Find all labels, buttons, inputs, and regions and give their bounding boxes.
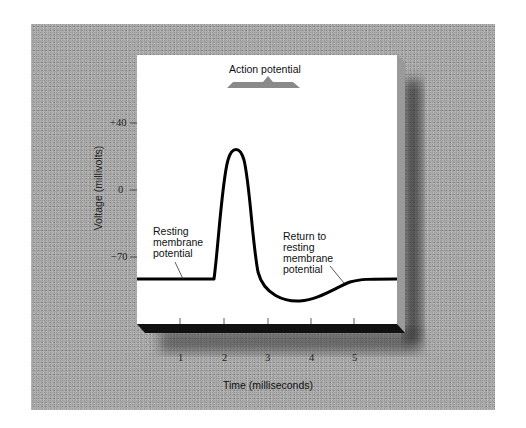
plot-panel xyxy=(137,55,397,324)
x-tick-2: 2 xyxy=(222,352,227,363)
resting-potential-annotation: Resting membrane potential xyxy=(153,226,203,259)
panel-side-face xyxy=(397,55,405,333)
return-to-resting-annotation: Return to resting membrane potential xyxy=(283,231,333,275)
panel-bottom-face xyxy=(137,324,405,333)
y-tick-plus40: +40 xyxy=(110,117,126,128)
y-axis-ticks xyxy=(130,123,137,257)
y-tick-minus70: −70 xyxy=(111,251,127,262)
y-tick-0: 0 xyxy=(118,184,123,195)
y-axis-label: Voltage (millivolts) xyxy=(92,138,104,238)
x-tick-1: 1 xyxy=(178,352,183,363)
x-tick-3: 3 xyxy=(265,352,270,363)
chart-title: Action potential xyxy=(229,64,301,75)
x-tick-5: 5 xyxy=(352,352,357,363)
x-tick-4: 4 xyxy=(309,352,314,363)
x-axis-label: Time (milliseconds) xyxy=(223,380,313,391)
